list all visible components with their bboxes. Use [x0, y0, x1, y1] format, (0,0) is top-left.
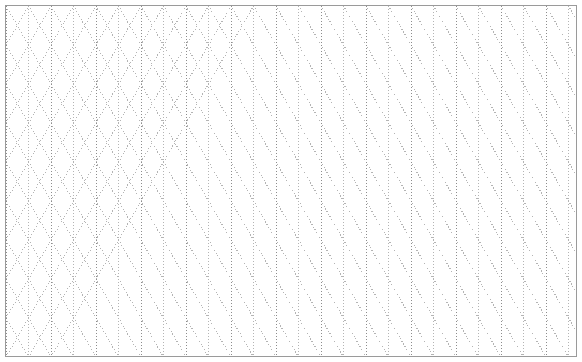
diagonal-dotted-rule-up-right [6, 6, 576, 123]
isometric-dot-grid-surface[interactable] [6, 6, 576, 356]
diagonal-dotted-rule-down-right [6, 123, 576, 356]
diagonal-dotted-rule-up-right [6, 6, 576, 201]
diagonal-dotted-rule-down-right [6, 6, 576, 356]
diagonal-dotted-rule-down-right [6, 201, 576, 356]
diagonal-dotted-rule-down-right [6, 6, 576, 356]
diagonal-dotted-rule-down-right [6, 6, 576, 356]
diagonal-dotted-rule-down-right [6, 6, 576, 356]
diagonal-dotted-rule-up-right [6, 6, 576, 240]
canvas-frame[interactable] [5, 5, 577, 357]
diagonal-dotted-rule-down-right [6, 6, 576, 19]
diagonal-dotted-rule-down-right [6, 6, 576, 356]
diagonal-dotted-rule-up-right [6, 6, 576, 356]
diagonal-dotted-rule-up-right [6, 6, 576, 162]
diagonal-dotted-rule-down-right [6, 6, 576, 331]
diagonal-dotted-rule-up-right [6, 6, 576, 279]
diagonal-dotted-rule-down-right [6, 6, 576, 356]
diagonal-dotted-rule-up-right [6, 6, 576, 45]
isometric-grid-page [0, 0, 582, 362]
diagonal-dotted-rule-down-right [6, 6, 576, 356]
diagonal-dotted-rule-up-right [6, 6, 576, 356]
diagonal-dotted-rule-down-right [6, 6, 576, 356]
diagonal-dotted-rule-down-right [6, 6, 576, 356]
diagonal-dotted-rule-down-right [6, 6, 576, 97]
diagonal-dotted-rule-down-right [6, 318, 576, 356]
diagonal-dotted-rule-down-right [6, 6, 576, 356]
diagonal-dotted-rule-down-right [6, 6, 576, 356]
diagonal-dotted-rule-down-right [6, 6, 576, 356]
diagonal-dotted-rule-down-right [6, 162, 576, 356]
diagonal-dotted-rule-up-right [6, 6, 576, 356]
diagonal-dotted-rule-down-right [6, 6, 576, 356]
diagonal-dotted-rule-up-right [6, 6, 576, 84]
diagonal-dotted-rule-down-right [6, 6, 576, 253]
diagonal-dotted-rule-down-right [6, 84, 576, 356]
diagonal-dotted-rule-down-right [6, 6, 576, 356]
isometric-grid-svg [6, 6, 576, 356]
diagonal-dotted-rule-down-right [6, 6, 576, 356]
diagonal-dotted-rule-down-right [6, 6, 576, 356]
diagonal-dotted-rule-down-right [6, 6, 576, 356]
